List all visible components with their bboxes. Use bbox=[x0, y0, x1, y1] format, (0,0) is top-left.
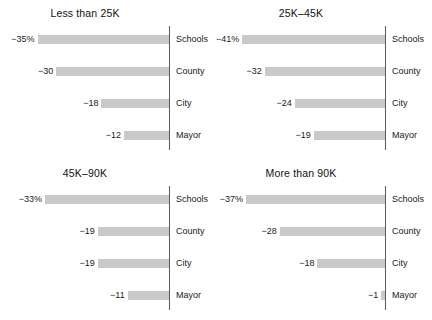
bar bbox=[98, 259, 169, 268]
bar bbox=[314, 131, 385, 140]
bar-value-label: −28 bbox=[262, 227, 277, 236]
category-labels: Schools County City Mayor bbox=[392, 186, 432, 310]
bar-value-label: −18 bbox=[83, 99, 98, 108]
bar-row: −28 bbox=[216, 226, 385, 236]
plot-area: −41% −32 −24 −19 bbox=[216, 26, 386, 150]
plot-area: −35% −30 −18 −12 bbox=[0, 26, 170, 150]
category-label-mayor: Mayor bbox=[392, 290, 417, 300]
figure-caption bbox=[0, 313, 432, 320]
category-label-mayor: Mayor bbox=[176, 290, 201, 300]
category-label-mayor: Mayor bbox=[176, 130, 201, 140]
bar-row: −32 bbox=[216, 66, 385, 76]
axis-line bbox=[169, 26, 170, 150]
bar bbox=[128, 291, 169, 300]
facet-title: More than 90K bbox=[216, 167, 386, 179]
bar-row: −12 bbox=[0, 130, 169, 140]
bar-value-label: −18 bbox=[299, 259, 314, 268]
category-label-county: County bbox=[176, 226, 205, 236]
category-label-city: City bbox=[176, 98, 192, 108]
category-label-mayor: Mayor bbox=[392, 130, 417, 140]
bar-row: −30 bbox=[0, 66, 169, 76]
bar bbox=[246, 195, 385, 204]
bar-rows: −41% −32 −24 −19 bbox=[216, 26, 385, 150]
bar-value-label: −33% bbox=[19, 195, 42, 204]
facet-title: 25K–45K bbox=[216, 7, 386, 19]
bar bbox=[265, 67, 385, 76]
category-label-schools: Schools bbox=[176, 34, 208, 44]
bar-row: −18 bbox=[0, 98, 169, 108]
category-labels: Schools County City Mayor bbox=[392, 26, 432, 150]
bar-value-label: −41% bbox=[216, 35, 239, 44]
category-label-city: City bbox=[176, 258, 192, 268]
bar bbox=[98, 227, 169, 236]
category-label-county: County bbox=[392, 226, 421, 236]
category-label-schools: Schools bbox=[176, 194, 208, 204]
bar-value-label: −37% bbox=[220, 195, 243, 204]
bar-rows: −33% −19 −19 −11 bbox=[0, 186, 169, 310]
plot-area: −33% −19 −19 −11 bbox=[0, 186, 170, 310]
axis-line bbox=[169, 186, 170, 310]
bar bbox=[242, 35, 385, 44]
bar-value-label: −30 bbox=[38, 67, 53, 76]
bar-row: −18 bbox=[216, 258, 385, 268]
bar-row: −19 bbox=[0, 226, 169, 236]
bar-value-label: −35% bbox=[11, 35, 34, 44]
bar-row: −1 bbox=[216, 290, 385, 300]
bar bbox=[56, 67, 169, 76]
bar-value-label: −19 bbox=[79, 227, 94, 236]
bar-row: −33% bbox=[0, 194, 169, 204]
bar-row: −41% bbox=[216, 34, 385, 44]
bar bbox=[295, 99, 385, 108]
bar-rows: −35% −30 −18 −12 bbox=[0, 26, 169, 150]
bar-rows: −37% −28 −18 −1 bbox=[216, 186, 385, 310]
bar-value-label: −32 bbox=[247, 67, 262, 76]
category-label-county: County bbox=[176, 66, 205, 76]
bar bbox=[280, 227, 385, 236]
bar-value-label: −1 bbox=[368, 291, 378, 300]
bar-row: −35% bbox=[0, 34, 169, 44]
bar bbox=[124, 131, 169, 140]
facet-panel-25k-45k: 25K–45K −41% −32 −24 bbox=[216, 0, 432, 160]
bar-value-label: −11 bbox=[110, 291, 125, 300]
category-label-county: County bbox=[392, 66, 421, 76]
category-label-schools: Schools bbox=[392, 194, 424, 204]
bar-value-label: −19 bbox=[79, 259, 94, 268]
bar bbox=[381, 291, 385, 300]
bar bbox=[38, 35, 169, 44]
facet-grid: Less than 25K −35% −30 −18 bbox=[0, 0, 432, 320]
bar-value-label: −24 bbox=[277, 99, 292, 108]
axis-line bbox=[385, 26, 386, 150]
faceted-bar-chart: Less than 25K −35% −30 −18 bbox=[0, 0, 432, 320]
bar bbox=[317, 259, 385, 268]
bar-value-label: −19 bbox=[295, 131, 310, 140]
category-label-city: City bbox=[392, 98, 408, 108]
facet-title: Less than 25K bbox=[0, 7, 170, 19]
bar bbox=[45, 195, 169, 204]
bar-row: −37% bbox=[216, 194, 385, 204]
category-label-schools: Schools bbox=[392, 34, 424, 44]
axis-line bbox=[385, 186, 386, 310]
bar-row: −24 bbox=[216, 98, 385, 108]
facet-title: 45K–90K bbox=[0, 167, 170, 179]
bar-row: −19 bbox=[216, 130, 385, 140]
plot-area: −37% −28 −18 −1 bbox=[216, 186, 386, 310]
bar-row: −11 bbox=[0, 290, 169, 300]
bar-value-label: −12 bbox=[106, 131, 121, 140]
facet-panel-less-than-25k: Less than 25K −35% −30 −18 bbox=[0, 0, 216, 160]
facet-panel-45k-90k: 45K–90K −33% −19 −19 bbox=[0, 160, 216, 320]
bar bbox=[101, 99, 169, 108]
bar-row: −19 bbox=[0, 258, 169, 268]
category-label-city: City bbox=[392, 258, 408, 268]
facet-panel-more-than-90k: More than 90K −37% −28 −18 bbox=[216, 160, 432, 320]
